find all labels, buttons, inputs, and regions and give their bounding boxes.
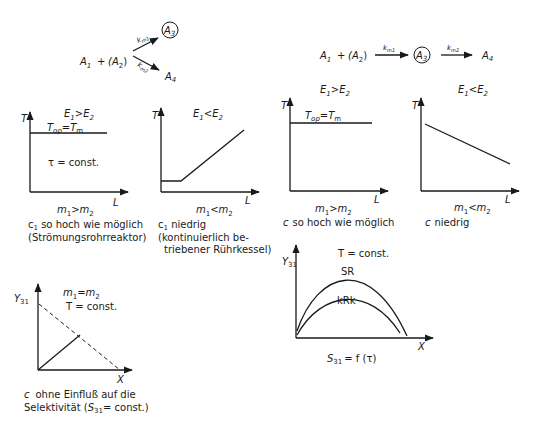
rate-km2: km2 [136, 61, 151, 75]
caption-line-3: triebener Rührkessel) [164, 244, 271, 255]
coreactant-a2: (A2) [348, 50, 367, 64]
caption-line-2: Selektivität (S31= const.) [24, 402, 149, 415]
panel-parallel-e1-gt-e2: T L E1>E2 Top=Tm τ = const. m1>m2 c1 so … [21, 108, 147, 243]
reactant-a1: A1 [79, 56, 91, 70]
panel-subtitle: T = const. [65, 301, 117, 312]
panel-title: E1<E2 [458, 84, 489, 98]
product-a4: A4 [164, 71, 176, 84]
panel-series-e1-lt-e2: T L E1<E2 m1<m2 cniedrig [412, 84, 519, 228]
x-axis-label: L [245, 195, 251, 206]
reactant-a1: A1 [319, 50, 331, 64]
plus-sign: + [337, 50, 345, 61]
reaction-selectivity-diagram: A1 + (A2) km1 km2 A3 A4 A1 + (A2) km1 A3… [0, 0, 539, 424]
y-axis-label: T [152, 110, 159, 121]
curve-label-sr: SR [341, 266, 354, 277]
plus-sign: + [97, 56, 105, 67]
series-reaction-scheme: A1 + (A2) km1 A3 km2 A4 [319, 44, 493, 64]
panel-title: m1=m2 [63, 287, 100, 301]
parallel-reaction-scheme: A1 + (A2) km1 km2 A3 A4 [79, 22, 178, 84]
yield-line [38, 335, 80, 370]
panel-title: E1>E2 [320, 84, 351, 98]
panel-title: E1<E2 [193, 108, 224, 122]
rate-km2: km2 [447, 44, 459, 53]
curve-sr [297, 280, 407, 336]
max-yield-limit-dashed [39, 304, 120, 370]
annotation-tau-const: τ = const. [48, 157, 99, 168]
y-axis-label: Y31 [14, 293, 29, 306]
product-a4: A4 [481, 50, 493, 63]
panel-yield-vs-conversion-equal-orders: Y31 X m1=m2 T = const. cohne Einfluß auf… [14, 284, 149, 415]
y-axis-label: T [281, 100, 288, 111]
x-axis-label: L [505, 194, 511, 205]
x-axis-label: L [374, 194, 380, 205]
condition: m1<m2 [196, 204, 233, 218]
condition: m1>m2 [57, 204, 94, 218]
y-axis-label: T [21, 113, 28, 124]
x-axis-label: L [113, 197, 119, 208]
x-axis-label: X [417, 341, 426, 352]
caption-line-2: (Strömungsrohrreaktor) [28, 232, 147, 243]
caption-line-1: S31= f (τ) [327, 353, 376, 366]
rate-km1: km1 [383, 44, 395, 53]
panel-yield-vs-conversion-reactor-comparison: Y31 X T = const. SR kRk S31= f (τ) [282, 245, 433, 366]
x-axis-label: X [116, 374, 125, 385]
coreactant-a2: (A2) [108, 56, 127, 70]
panel-parallel-e1-lt-e2: T L E1<E2 m1<m2 c1 niedrig (kontinuierli… [152, 108, 271, 255]
annotation-top-tm: Top=Tm [305, 110, 341, 123]
caption-line-1: c1 so hoch wie möglich [28, 219, 143, 232]
temperature-profile-rising [161, 130, 244, 181]
caption-line-1: cohne Einfluß auf die [24, 389, 136, 400]
panel-series-e1-gt-e2: T L E1>E2 Top=Tm m1>m2 cso hoch wie mögl… [281, 84, 394, 228]
y-axis-label: T [412, 100, 419, 111]
caption-line-2: (kontinuierlich be- [158, 232, 249, 243]
temperature-profile-falling [425, 124, 510, 164]
panel-title: T = const. [337, 248, 389, 259]
y-axis-label: Y31 [282, 256, 297, 269]
condition: m1>m2 [315, 203, 352, 217]
caption-line-1: c1 niedrig [158, 219, 206, 232]
caption-line-1: cniedrig [425, 217, 469, 228]
condition: m1<m2 [454, 202, 491, 216]
curve-label-krk: kRk [337, 295, 356, 306]
caption-line-1: cso hoch wie möglich [283, 217, 394, 228]
panel-title: E1>E2 [64, 108, 95, 122]
